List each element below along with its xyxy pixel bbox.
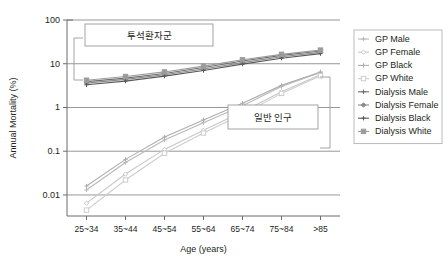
legend-item-label: GP Male <box>375 34 410 44</box>
data-point <box>361 76 365 80</box>
x-tick-label: 35~44 <box>114 224 138 234</box>
series-line-gp-female <box>87 75 321 203</box>
data-point <box>162 151 166 155</box>
x-tick-label: 65~74 <box>231 224 255 234</box>
dialysis-bracket <box>74 38 83 80</box>
dialysis-annotation-label: 투석환자군 <box>127 30 172 41</box>
legend-item-label: GP Female <box>375 47 420 57</box>
data-point <box>162 70 166 74</box>
general-population-bracket <box>320 77 330 148</box>
data-point <box>361 129 365 133</box>
general-population-annotation-label: 일반 인구 <box>254 112 293 123</box>
data-point <box>240 58 244 62</box>
legend-item-label: GP White <box>375 73 413 83</box>
series-line-gp-white <box>87 76 321 210</box>
legend-item-label: Dialysis White <box>375 126 432 136</box>
x-tick-label: 75~84 <box>270 224 294 234</box>
data-point <box>84 208 88 212</box>
legend-item-label: GP Black <box>375 60 413 70</box>
mortality-by-age-chart: 1001010.10.0125~3435~4445~5455~6465~7475… <box>0 0 448 268</box>
data-point <box>123 74 127 78</box>
y-tick-label: 100 <box>45 15 60 25</box>
series-markers-gp-white <box>84 74 322 213</box>
y-tick-label: 0.1 <box>47 146 60 156</box>
legend-item-label: Dialysis Male <box>375 87 428 97</box>
series-markers-gp-female <box>84 73 322 206</box>
y-tick-label: 10 <box>50 59 60 69</box>
x-tick-label: 55~64 <box>192 224 216 234</box>
data-point <box>279 91 283 95</box>
x-tick-label: 45~54 <box>153 224 177 234</box>
x-tick-label: >85 <box>313 224 328 234</box>
legend-item-label: Dialysis Black <box>375 113 431 123</box>
y-axis-title: Annual Mortality (%) <box>8 77 18 158</box>
data-point <box>201 64 205 68</box>
data-point <box>84 78 88 82</box>
data-point <box>123 178 127 182</box>
chart-container: 1001010.10.0125~3435~4445~5455~6465~7475… <box>0 0 448 268</box>
x-axis-title: Age (years) <box>180 244 227 254</box>
legend-item-label: Dialysis Female <box>375 100 439 110</box>
y-tick-label: 1 <box>55 102 60 112</box>
y-tick-label: 0.01 <box>42 190 60 200</box>
data-point <box>201 131 205 135</box>
x-tick-label: 25~34 <box>75 224 99 234</box>
data-point <box>318 48 322 52</box>
data-point <box>279 52 283 56</box>
